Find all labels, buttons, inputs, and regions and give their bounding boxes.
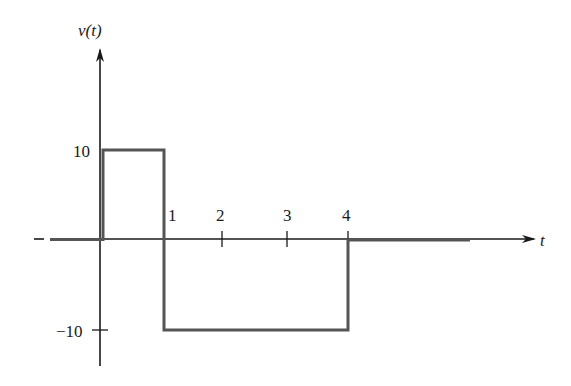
y-tick-label-10: 10 [73, 142, 90, 161]
x-axis-label: t [540, 231, 546, 250]
x-tick-label-1: 1 [168, 206, 177, 225]
y-tick-label-neg10: −10 [56, 322, 83, 341]
x-tick-label-4: 4 [342, 206, 351, 225]
signal-chart: v(t) t 10 −10 1 2 3 4 [0, 0, 571, 386]
y-axis [92, 50, 108, 366]
x-tick-label-3: 3 [283, 206, 292, 225]
x-tick-label-2: 2 [216, 206, 225, 225]
y-axis-label: v(t) [78, 21, 102, 40]
signal-line [50, 150, 470, 330]
